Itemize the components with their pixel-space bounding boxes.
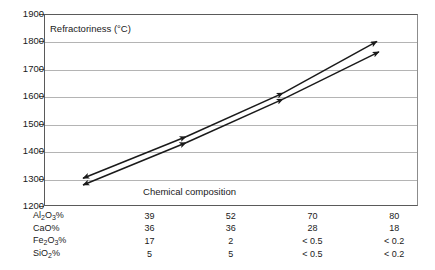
cell-fe2o3-c3: < 0.5 [272, 234, 354, 247]
cell-al2o3-c2: 52 [190, 209, 272, 222]
y-tick-label-1300: 1300 [8, 174, 44, 184]
table-row: Al2O3% 39 52 70 80 [0, 209, 435, 222]
gridline-1400 [45, 152, 417, 153]
cell-cao-c4: 18 [353, 222, 435, 234]
row-label-al2o3: Al2O3% [0, 209, 109, 222]
row-label-fe2o3: Fe2O3% [0, 234, 109, 247]
gridline-1500 [45, 125, 417, 126]
x-axis-title: Chemical composition [0, 186, 435, 197]
table-row: SiO2% 5 5 < 0.5 < 0.2 [0, 247, 435, 260]
cell-cao-c2: 36 [190, 222, 272, 234]
gridline-1800 [45, 42, 417, 43]
cell-fe2o3-c1: 17 [109, 234, 190, 247]
y-tick-label-1900: 1900 [8, 9, 44, 19]
table-row: Fe2O3% 17 2 < 0.5 < 0.2 [0, 234, 435, 247]
cell-al2o3-c1: 39 [109, 209, 190, 222]
y-axis-title: Refractoriness (°C) [50, 23, 131, 34]
y-tick-label-1800: 1800 [8, 37, 44, 47]
gridline-1600 [45, 97, 417, 98]
composition-table: Al2O3% 39 52 70 80 CaO% 36 36 28 18 Fe2O… [0, 209, 435, 260]
row-label-cao: CaO% [0, 222, 109, 234]
gridline-1700 [45, 70, 417, 71]
cell-al2o3-c4: 80 [353, 209, 435, 222]
cell-sio2-c4: < 0.2 [353, 247, 435, 260]
x-axis-title-text: Chemical composition [143, 186, 236, 197]
table-row: CaO% 36 36 28 18 [0, 222, 435, 234]
cell-sio2-c1: 5 [109, 247, 190, 260]
y-tick-label-1600: 1600 [8, 92, 44, 102]
cell-sio2-c2: 5 [190, 247, 272, 260]
gridline-1300 [45, 180, 417, 181]
cell-sio2-c3: < 0.5 [272, 247, 354, 260]
cell-fe2o3-c4: < 0.2 [353, 234, 435, 247]
refractoriness-chart-figure: 1900 1800 1700 1600 1500 1400 1300 1200 … [0, 0, 435, 270]
plot-area [44, 14, 418, 206]
cell-cao-c1: 36 [109, 222, 190, 234]
y-tick-label-1700: 1700 [8, 64, 44, 74]
cell-fe2o3-c2: 2 [190, 234, 272, 247]
y-tick-label-1400: 1400 [8, 146, 44, 156]
cell-cao-c3: 28 [272, 222, 354, 234]
row-label-sio2: SiO2% [0, 247, 109, 260]
y-tick-label-1500: 1500 [8, 119, 44, 129]
cell-al2o3-c3: 70 [272, 209, 354, 222]
